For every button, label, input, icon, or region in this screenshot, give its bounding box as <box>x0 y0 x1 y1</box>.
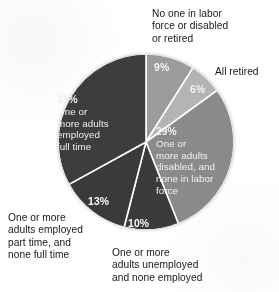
label-line: One or <box>156 138 224 150</box>
label-line: more adults <box>57 118 129 130</box>
pie-chart: No one in labor force or disabled or ret… <box>0 0 279 292</box>
label-line: none full time <box>8 249 118 261</box>
label-adults-unemployed-none-employed: One or more adults unemployed and none e… <box>112 247 242 284</box>
label-all-retired: All retired <box>215 66 279 78</box>
label-line: disabled, and <box>156 161 224 173</box>
label-adults-employed-full-time: 33% One or more adults employed full tim… <box>57 94 129 153</box>
label-line: or retired <box>152 33 272 45</box>
label-line: adults unemployed <box>112 259 242 271</box>
label-line: One or more <box>112 247 242 259</box>
value-label-adults-employed-full-time: 33% <box>57 94 129 106</box>
label-line: One or more <box>8 212 118 224</box>
label-no-one-in-labor-force: No one in labor force or disabled or ret… <box>152 8 272 45</box>
value-label-adults-unemployed-none-employed: 10% <box>128 218 149 229</box>
value-label-no-one-in-labor-force: 9% <box>154 62 169 73</box>
value-label-adults-employed-part-time: 13% <box>88 196 109 207</box>
label-line: full time <box>57 141 129 153</box>
label-adults-employed-part-time: One or more adults employed part time, a… <box>8 212 118 262</box>
label-line: none in labor <box>156 173 224 185</box>
label-line: more adults <box>156 150 224 162</box>
label-adults-disabled-none-in-labor-force: 29% One or more adults disabled, and non… <box>156 126 224 196</box>
label-line: and none employed <box>112 272 242 284</box>
label-line: adults employed <box>8 224 118 236</box>
label-line: No one in labor <box>152 8 272 20</box>
label-line: part time, and <box>8 237 118 249</box>
value-label-all-retired: 6% <box>190 84 205 95</box>
label-line: One or <box>57 106 129 118</box>
label-line: force or disabled <box>152 20 272 32</box>
value-label-adults-disabled: 29% <box>156 126 224 138</box>
label-line: All retired <box>215 66 279 78</box>
label-line: employed <box>57 129 129 141</box>
label-line: force <box>156 185 224 197</box>
